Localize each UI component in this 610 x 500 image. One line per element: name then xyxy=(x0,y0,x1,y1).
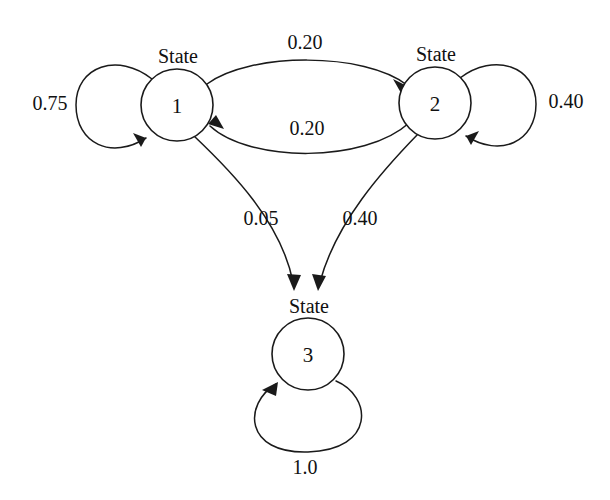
edge-label-1-to-2: 0.20 xyxy=(288,31,323,54)
node-caption-state-1: State xyxy=(158,45,198,68)
edge-label-self-2: 0.40 xyxy=(549,90,584,113)
edge-path-1-2 xyxy=(207,60,407,85)
state-diagram-canvas: State 1 State 2 State 3 0.75 0.20 0.20 0… xyxy=(0,0,610,500)
node-caption-state-2: State xyxy=(416,43,456,66)
edge-label-2-to-1: 0.20 xyxy=(290,117,325,140)
edge-self-loop-state-3 xyxy=(255,381,362,452)
arrowhead-2-3 xyxy=(312,274,326,291)
edge-state1-to-state2 xyxy=(207,60,409,93)
node-label-state-2: 2 xyxy=(430,92,441,117)
diagram-svg xyxy=(0,0,610,500)
edge-label-self-1: 0.75 xyxy=(33,92,68,115)
edge-label-self-3: 1.0 xyxy=(293,456,318,479)
arrowhead-1-3 xyxy=(287,274,301,291)
node-label-state-3: 3 xyxy=(303,343,314,368)
node-label-state-1: 1 xyxy=(172,94,183,119)
edge-label-2-to-3: 0.40 xyxy=(343,207,378,230)
edge-label-1-to-3: 0.05 xyxy=(244,207,279,230)
arrowhead-self-2 xyxy=(466,131,479,145)
node-caption-state-3: State xyxy=(289,295,329,318)
arrowhead-self-1 xyxy=(133,133,146,147)
